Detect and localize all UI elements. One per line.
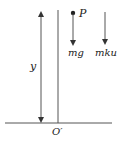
height-label: y [29,60,37,73]
weight-force-label: mg [68,47,84,58]
force-diagram: P mg mku y O′ [0,0,125,148]
drag-force-arrow [102,12,108,45]
weight-force-arrow [70,14,76,46]
arrow-down-icon [102,39,108,45]
arrow-down-icon [38,117,44,123]
height-arrow [38,11,44,123]
arrow-down-icon [70,40,76,46]
arrow-up-icon [38,11,44,17]
origin-label: O′ [52,126,63,137]
point-label: P [78,7,87,20]
drag-force-label: mku [95,47,117,58]
